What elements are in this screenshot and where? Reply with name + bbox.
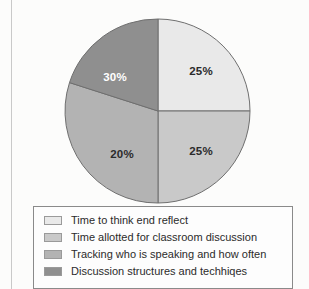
pie-label-slice-1: 25% [189, 65, 213, 77]
scanned-page: 25% 25% 20% 30% Time to think end reflec… [0, 0, 309, 289]
legend-swatch-icon [44, 233, 62, 242]
page-edge-rule [11, 0, 12, 289]
pie-label-slice-4: 30% [103, 71, 127, 83]
pie-chart-svg: 25% 25% 20% 30% [60, 13, 256, 209]
pie-label-slice-3: 20% [110, 148, 134, 160]
legend-swatch-icon [44, 250, 62, 259]
legend-swatch-icon [44, 216, 62, 225]
pie-label-slice-2: 25% [189, 145, 213, 157]
legend-item-label: Tracking who is speaking and how often [71, 248, 266, 261]
legend-item-label: Time allotted for classroom discussion [71, 231, 257, 244]
pie-slice-time-allotted[interactable] [158, 111, 250, 203]
legend-item-time-to-think[interactable]: Time to think end reflect [34, 212, 292, 229]
legend-swatch-icon [44, 267, 62, 276]
legend-item-discussion-structures[interactable]: Discussion structures and techhiqes [34, 263, 292, 280]
legend-item-label: Time to think end reflect [71, 214, 188, 227]
chart-legend: Time to think end reflect Time allotted … [33, 206, 293, 289]
legend-item-time-allotted[interactable]: Time allotted for classroom discussion [34, 229, 292, 246]
pie-chart: 25% 25% 20% 30% [60, 13, 256, 209]
legend-item-label: Discussion structures and techhiqes [71, 265, 247, 278]
legend-item-tracking-who-is-speaking[interactable]: Tracking who is speaking and how often [34, 246, 292, 263]
